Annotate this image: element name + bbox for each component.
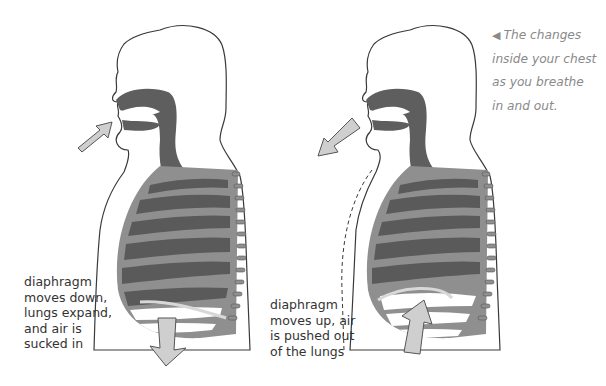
caption-line: as you breathe <box>492 71 596 95</box>
inhale-label-line: diaphragm <box>24 274 112 290</box>
exhale-label: diaphragm moves up, air is pushed out of… <box>270 297 355 359</box>
inhale-label-line: lungs expand, <box>24 305 112 321</box>
inhale-label-line: moves down, <box>24 290 112 306</box>
pointer-triangle-icon: ◀ <box>492 29 500 42</box>
exhale-label-line: diaphragm <box>270 297 355 313</box>
air-out-arrow-icon <box>318 118 360 156</box>
exhale-label-line: moves up, air <box>270 313 355 329</box>
inhale-label-line: and air is <box>24 321 112 337</box>
exhale-label-line: is pushed out <box>270 328 355 344</box>
figure-caption: ◀The changes inside your chest as you br… <box>492 24 596 118</box>
breathing-diagram: diaphragm moves down, lungs expand, and … <box>0 0 606 386</box>
caption-line: inside your chest <box>492 48 596 72</box>
air-in-arrow-icon <box>78 122 112 152</box>
inhale-label: diaphragm moves down, lungs expand, and … <box>24 274 112 352</box>
caption-line: ◀The changes <box>492 24 596 48</box>
caption-line: in and out. <box>492 95 596 119</box>
exhale-label-line: of the lungs <box>270 344 355 360</box>
inhale-label-line: sucked in <box>24 336 112 352</box>
